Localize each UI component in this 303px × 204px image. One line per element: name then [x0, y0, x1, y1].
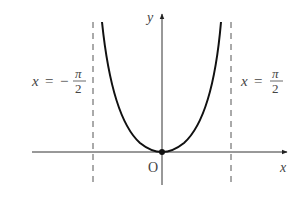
asymptote-right-eq: = — [254, 73, 262, 89]
asymptote-right-label: x = π 2 — [240, 66, 283, 96]
asymptote-left-num: π — [75, 66, 82, 81]
asymptote-right-num: π — [272, 66, 279, 81]
function-graph: y O x x = − π 2 x = π 2 — [0, 0, 303, 204]
x-axis-label: x — [279, 160, 287, 175]
asymptote-left-den: 2 — [75, 81, 82, 96]
origin-point — [159, 149, 165, 155]
origin-label: O — [148, 160, 158, 175]
asymptote-right-lhs: x — [240, 73, 248, 89]
asymptote-left-sign: − — [60, 73, 68, 89]
asymptote-left-label: x = − π 2 — [31, 66, 86, 96]
asymptote-right-den: 2 — [272, 81, 279, 96]
y-axis-label: y — [145, 10, 154, 25]
asymptote-left-lhs: x — [31, 73, 39, 89]
asymptote-left-eq: = — [45, 73, 53, 89]
